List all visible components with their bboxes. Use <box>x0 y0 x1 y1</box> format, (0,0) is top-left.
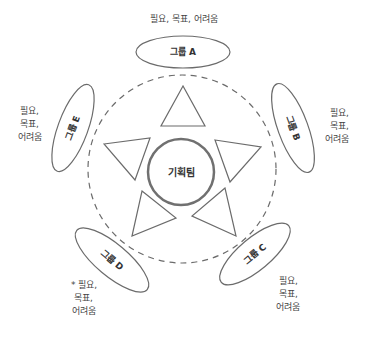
group-b-note-3: 어려움 <box>325 134 349 144</box>
group-e-note-3: 어려움 <box>18 132 42 142</box>
group-a-label: 그룹 A <box>170 46 196 57</box>
group-c: 그룹 C 필요, 목표, 어려움 <box>211 213 300 312</box>
group-a: 필요, 목표, 어려움 그룹 A <box>136 13 230 68</box>
group-c-note-1: 필요, <box>279 275 298 286</box>
planning-team-diagram: 기획팀 필요, 목표, 어려움 그룹 A 그룹 B 필요, 목표, 어려움 그룹… <box>0 0 368 337</box>
group-b-note-1: 필요, <box>330 107 349 118</box>
group-d-note-2: 목표, <box>74 293 93 303</box>
triangle-bottom-left <box>132 191 176 236</box>
group-e-note-1: 필요, <box>20 105 39 116</box>
group-e-note-2: 목표, <box>20 119 39 129</box>
center-label: 기획팀 <box>168 166 195 178</box>
group-e-label: 그룹 E <box>63 114 82 142</box>
group-d-label: 그룹 D <box>99 247 126 273</box>
triangle-right <box>215 140 261 182</box>
group-d-note-1: * 필요, <box>71 279 97 290</box>
group-e: 그룹 E 필요, 목표, 어려움 <box>18 80 103 177</box>
group-b-label: 그룹 B <box>284 114 303 142</box>
group-d-note-3: 어려움 <box>72 306 96 316</box>
triangle-bottom-right <box>192 188 236 236</box>
group-b-note-2: 목표, <box>330 121 349 131</box>
group-c-note-2: 목표, <box>279 289 298 299</box>
triangle-left <box>104 138 150 180</box>
group-c-note-3: 어려움 <box>276 302 300 312</box>
triangle-top <box>161 86 205 126</box>
group-d: 그룹 D * 필요, 목표, 어려움 <box>66 218 157 316</box>
group-a-note: 필요, 목표, 어려움 <box>150 13 217 24</box>
group-c-label: 그룹 C <box>241 241 268 266</box>
